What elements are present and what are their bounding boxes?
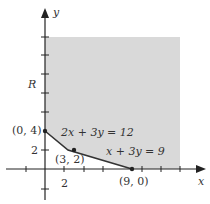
vertex-3-2 [72,148,76,152]
y-axis-arrow-icon [41,8,49,18]
line-label-x-3y-9: x + 3y = 9 [106,145,165,158]
vertex-9-0 [130,167,134,171]
vertex-label-0-4: (0, 4) [12,124,42,137]
x-axis-arrow-icon [196,165,206,173]
line-label-2x-3y-12: 2x + 3y = 12 [60,126,134,139]
x-axis-label: x [198,175,205,188]
feasible-region-diagram: y x R 2 2 (0, 4) (3, 2) (9, 0) 2x + 3y =… [0,0,210,204]
vertex-label-3-2: (3, 2) [55,153,85,166]
region-label: R [27,78,36,91]
y-axis-label: y [52,6,60,19]
y-tick-label: 2 [31,144,38,157]
x-tick-label: 2 [61,177,68,190]
vertex-0-4 [43,129,47,133]
vertex-label-9-0: (9, 0) [119,175,149,188]
